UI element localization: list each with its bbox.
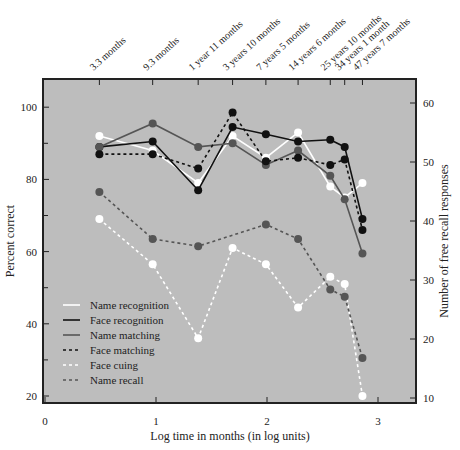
- data-point: [95, 143, 103, 151]
- data-point: [341, 293, 349, 301]
- data-point: [326, 286, 334, 294]
- data-point: [194, 186, 202, 194]
- y2-tick-label: 50: [423, 156, 435, 168]
- y2-tick-label: 20: [423, 333, 435, 345]
- y2-tick-label: 40: [423, 215, 435, 227]
- data-point: [358, 249, 366, 257]
- y2-tick-label: 30: [423, 274, 435, 286]
- data-point: [358, 392, 366, 400]
- data-point: [262, 130, 270, 138]
- y2-axis-label: Number of free recall responses: [437, 164, 451, 318]
- data-point: [149, 260, 157, 268]
- legend-label: Name recognition: [90, 299, 170, 311]
- data-point: [262, 260, 270, 268]
- data-point: [229, 244, 237, 252]
- top-tick-label: 9.3 months: [141, 34, 181, 72]
- legend-label: Face cuing: [90, 359, 138, 371]
- data-point: [262, 221, 270, 229]
- data-point: [358, 226, 366, 234]
- data-point: [95, 150, 103, 158]
- legend-label: Face recognition: [90, 314, 164, 326]
- data-point: [294, 154, 302, 162]
- x-tick-label: 0: [42, 415, 48, 427]
- y-tick-label: 40: [26, 318, 38, 330]
- data-point: [95, 132, 103, 140]
- data-point: [229, 109, 237, 117]
- data-point: [194, 242, 202, 250]
- data-point: [294, 128, 302, 136]
- data-point: [341, 143, 349, 151]
- data-point: [294, 137, 302, 145]
- x-tick-label: 1: [153, 415, 159, 427]
- data-point: [294, 235, 302, 243]
- x-axis-label: Log time in months (in log units): [150, 429, 309, 443]
- y-tick-label: 100: [21, 101, 38, 113]
- data-point: [326, 273, 334, 281]
- x-tick-label: 2: [264, 415, 270, 427]
- data-point: [341, 156, 349, 164]
- data-point: [294, 147, 302, 155]
- chart: 01233.3 months9.3 months1 year 11 months…: [0, 0, 460, 450]
- data-point: [229, 123, 237, 131]
- y-axis-label: Percent correct: [3, 204, 17, 277]
- legend-label: Name recall: [90, 374, 143, 386]
- legend-label: Face matching: [90, 344, 155, 356]
- top-tick-label: 3.3 months: [87, 34, 127, 72]
- data-point: [95, 215, 103, 223]
- y-tick-label: 80: [26, 173, 38, 185]
- data-point: [341, 195, 349, 203]
- data-point: [149, 137, 157, 145]
- legend-label: Name matching: [90, 329, 160, 341]
- y-tick-label: 60: [26, 246, 38, 258]
- data-point: [326, 172, 334, 180]
- data-point: [294, 304, 302, 312]
- data-point: [149, 119, 157, 127]
- data-point: [95, 188, 103, 196]
- data-point: [358, 354, 366, 362]
- data-point: [194, 143, 202, 151]
- data-point: [326, 136, 334, 144]
- y-tick-label: 20: [26, 390, 38, 402]
- data-point: [229, 139, 237, 147]
- y2-tick-label: 60: [423, 97, 435, 109]
- y2-tick-label: 10: [423, 392, 435, 404]
- data-point: [149, 235, 157, 243]
- data-point: [194, 334, 202, 342]
- data-point: [341, 280, 349, 288]
- data-point: [326, 161, 334, 169]
- data-point: [326, 183, 334, 191]
- data-point: [262, 157, 270, 165]
- x-tick-label: 3: [375, 415, 381, 427]
- data-point: [194, 165, 202, 173]
- data-point: [358, 179, 366, 187]
- data-point: [149, 150, 157, 158]
